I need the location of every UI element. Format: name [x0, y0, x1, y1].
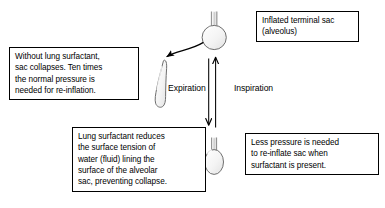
curved-arrow-to-collapsed-sac	[167, 43, 203, 57]
collapsed-sac-shape	[155, 60, 167, 107]
collapse-callout: Without lung surfactant, sac collapses. …	[9, 47, 139, 100]
expiration-label: Expiration	[168, 83, 206, 93]
pressure-callout: Less pressure is needed to re-inflate sa…	[245, 133, 379, 175]
surfactant-callout: Lung surfactant reduces the surface tens…	[72, 127, 206, 192]
deflated-sac-shape	[205, 138, 224, 175]
diagram-canvas: Inflated terminal sac (alveolus) Without…	[0, 0, 385, 208]
inflated-sac-shape	[202, 12, 226, 50]
inspiration-label: Inspiration	[234, 83, 273, 93]
inflated-terminal-sac-callout: Inflated terminal sac (alveolus)	[256, 11, 359, 42]
